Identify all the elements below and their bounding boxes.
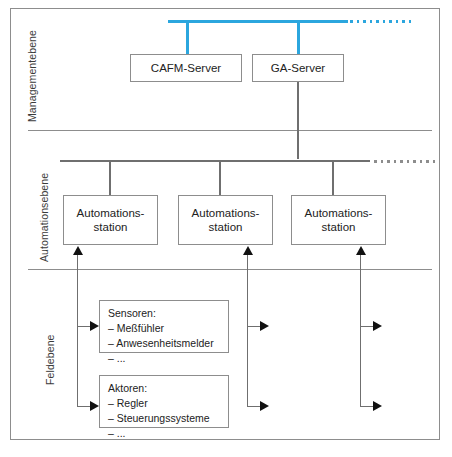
field-branch-station-3-lower bbox=[360, 406, 374, 407]
field-branch-station-2-upper bbox=[247, 326, 261, 327]
server-box-cafm[interactable]: CAFM-Server bbox=[130, 54, 242, 82]
server-label-ga: GA-Server bbox=[271, 61, 325, 75]
automation-station-3[interactable]: Automations- station bbox=[291, 195, 386, 245]
field-arrow-right-aktoren bbox=[90, 401, 99, 411]
field-group-aktoren-item-2: – Steuerungssysteme bbox=[108, 411, 228, 426]
field-arrow-up-station-3 bbox=[356, 246, 366, 255]
field-branch-station-3-upper bbox=[360, 326, 374, 327]
field-trunk-station-2 bbox=[247, 255, 248, 407]
management-bus-line bbox=[168, 20, 348, 23]
divider-automation-field bbox=[28, 269, 432, 270]
field-trunk-station-3 bbox=[360, 255, 361, 407]
automation-station-3-line1: Automations- bbox=[305, 206, 373, 220]
field-group-aktoren-title: Aktoren: bbox=[108, 381, 228, 396]
field-arrow-right-station-3-upper bbox=[373, 321, 382, 331]
management-drop-cafm bbox=[186, 20, 189, 56]
automation-bus-line bbox=[60, 160, 370, 162]
automation-drop-station-2 bbox=[219, 160, 221, 196]
field-arrow-right-station-2-upper bbox=[260, 321, 269, 331]
automation-station-1[interactable]: Automations- station bbox=[63, 195, 158, 245]
field-group-sensoren[interactable]: Sensoren: – Meßfühler – Anwesenheitsmeld… bbox=[99, 300, 229, 353]
automation-station-1-line2: station bbox=[94, 220, 128, 234]
divider-management-automation bbox=[28, 130, 432, 131]
field-arrow-up-station-2 bbox=[243, 246, 253, 255]
field-group-sensoren-item-3: – ... bbox=[108, 351, 228, 366]
figure-caption bbox=[10, 446, 430, 456]
link-ga-to-automation-bus bbox=[297, 82, 299, 159]
field-group-sensoren-item-1: – Meßfühler bbox=[108, 321, 228, 336]
field-branch-station-1-aktoren bbox=[77, 406, 91, 407]
automation-station-1-line1: Automations- bbox=[77, 206, 145, 220]
field-arrow-right-sensoren bbox=[90, 321, 99, 331]
field-group-sensoren-item-2: – Anwesenheitsmelder bbox=[108, 336, 228, 351]
field-group-sensoren-title: Sensoren: bbox=[108, 306, 228, 321]
field-branch-station-1-sensoren bbox=[77, 326, 91, 327]
management-drop-ga bbox=[297, 20, 300, 56]
field-arrow-right-station-3-lower bbox=[373, 401, 382, 411]
automation-station-2[interactable]: Automations- station bbox=[178, 195, 273, 245]
level-label-managementebene: Managementebene bbox=[26, 30, 38, 122]
server-box-ga[interactable]: GA-Server bbox=[252, 54, 344, 82]
automation-drop-station-3 bbox=[332, 160, 334, 196]
automation-station-2-line2: station bbox=[209, 220, 243, 234]
field-trunk-station-1 bbox=[77, 255, 78, 407]
field-group-aktoren-item-1: – Regler bbox=[108, 396, 228, 411]
server-label-cafm: CAFM-Server bbox=[151, 61, 221, 75]
level-label-automationsebene: Automationsebene bbox=[38, 173, 50, 262]
figure-root: Managementebene Automationsebene Feldebe… bbox=[0, 0, 452, 457]
field-group-aktoren[interactable]: Aktoren: – Regler – Steuerungssysteme – … bbox=[99, 375, 229, 428]
field-arrow-right-station-2-lower bbox=[260, 401, 269, 411]
field-branch-station-2-lower bbox=[247, 406, 261, 407]
management-bus-dotted-continuation bbox=[350, 20, 411, 23]
field-group-aktoren-item-3: – ... bbox=[108, 426, 228, 441]
automation-station-2-line1: Automations- bbox=[192, 206, 260, 220]
automation-bus-dotted-continuation bbox=[374, 160, 435, 163]
field-arrow-up-station-1 bbox=[73, 246, 83, 255]
automation-station-3-line2: station bbox=[322, 220, 356, 234]
level-label-feldebene: Feldebene bbox=[44, 334, 56, 385]
automation-drop-station-1 bbox=[109, 160, 111, 196]
